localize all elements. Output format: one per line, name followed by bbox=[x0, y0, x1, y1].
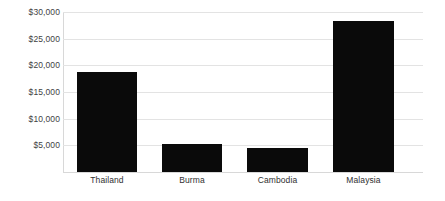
y-axis-tick-label: $10,000 bbox=[0, 114, 60, 123]
plot-area bbox=[63, 12, 423, 172]
x-axis-label-thailand: Thailand bbox=[67, 176, 147, 185]
x-axis-label-malaysia: Malaysia bbox=[323, 176, 404, 185]
y-axis-tick-label: $5,000 bbox=[0, 141, 60, 150]
bar-thailand[interactable] bbox=[77, 72, 137, 172]
bar-malaysia[interactable] bbox=[333, 21, 394, 172]
x-axis-category-labels: Thailand Burma Cambodia Malaysia bbox=[63, 176, 423, 198]
x-axis-label-burma: Burma bbox=[152, 176, 232, 185]
bar-cambodia[interactable] bbox=[247, 148, 308, 172]
x-axis-label-cambodia: Cambodia bbox=[237, 176, 318, 185]
x-axis-baseline bbox=[63, 172, 423, 173]
y-axis-tick-labels: $30,000 $25,000 $20,000 $15,000 $10,000 … bbox=[0, 0, 60, 201]
y-axis-tick-label: $25,000 bbox=[0, 34, 60, 43]
gridline-30000 bbox=[63, 12, 423, 13]
y-axis-tick-label: $15,000 bbox=[0, 88, 60, 97]
y-axis-tick-label: $30,000 bbox=[0, 8, 60, 17]
bar-chart: $30,000 $25,000 $20,000 $15,000 $10,000 … bbox=[0, 0, 445, 201]
bar-burma[interactable] bbox=[162, 144, 222, 172]
y-axis-tick-label: $20,000 bbox=[0, 61, 60, 70]
